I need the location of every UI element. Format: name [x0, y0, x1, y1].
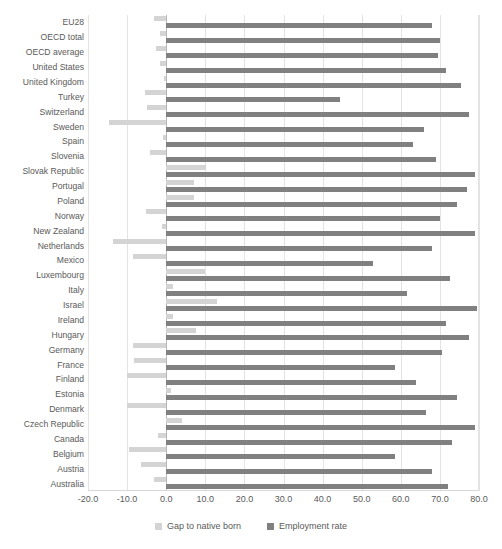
plot-right-border: [478, 15, 479, 491]
category-label: Denmark: [0, 404, 84, 414]
bar-row: [88, 372, 479, 387]
bar-row: [88, 476, 479, 491]
category-label: Belgium: [0, 449, 84, 459]
legend-item[interactable]: Employment rate: [267, 521, 347, 531]
bar-gap-to-native-born: [160, 61, 166, 66]
bar-row: [88, 298, 479, 313]
bar-employment-rate: [166, 172, 475, 177]
bar-employment-rate: [166, 23, 432, 28]
bar-gap-to-native-born: [113, 239, 167, 244]
bar-employment-rate: [166, 306, 477, 311]
bar-row: [88, 134, 479, 149]
bar-row: [88, 30, 479, 45]
bar-gap-to-native-born: [166, 180, 193, 185]
category-label: New Zealand: [0, 226, 84, 236]
bar-employment-rate: [166, 246, 432, 251]
bar-row: [88, 179, 479, 194]
chart-legend: Gap to native bornEmployment rate: [0, 521, 502, 531]
bar-gap-to-native-born: [145, 90, 167, 95]
x-axis-tick-labels: -20.0-10.00.010.020.030.040.050.060.070.…: [88, 494, 479, 510]
category-label: OECD average: [0, 47, 84, 57]
bar-row: [88, 253, 479, 268]
legend-label: Employment rate: [279, 521, 347, 531]
bar-row: [88, 283, 479, 298]
x-tick-label: -20.0: [78, 494, 99, 504]
bar-employment-rate: [166, 53, 438, 58]
x-tick-label: 70.0: [431, 494, 449, 504]
category-label: EU28: [0, 17, 84, 27]
bar-gap-to-native-born: [154, 477, 167, 482]
bar-row: [88, 89, 479, 104]
chart-container: EU28OECD totalOECD averageUnited StatesU…: [0, 0, 502, 549]
legend-swatch-icon: [155, 523, 162, 530]
bar-gap-to-native-born: [158, 433, 166, 438]
x-tick-label: 20.0: [236, 494, 254, 504]
bar-employment-rate: [166, 112, 469, 117]
category-label: Spain: [0, 136, 84, 146]
bar-employment-rate: [166, 38, 440, 43]
category-label: Italy: [0, 285, 84, 295]
bar-gap-to-native-born: [166, 314, 173, 319]
category-label: Slovenia: [0, 151, 84, 161]
x-tick-label: 80.0: [470, 494, 488, 504]
category-label: Mexico: [0, 255, 84, 265]
bar-row: [88, 104, 479, 119]
category-label: Norway: [0, 211, 84, 221]
bar-gap-to-native-born: [147, 105, 167, 110]
x-tick-label: 30.0: [275, 494, 293, 504]
bar-gap-to-native-born: [160, 31, 166, 36]
bar-gap-to-native-born: [134, 358, 166, 363]
bar-gap-to-native-born: [109, 120, 166, 125]
bar-row: [88, 208, 479, 223]
bar-employment-rate: [166, 484, 448, 489]
bar-gap-to-native-born: [156, 46, 166, 51]
bar-row: [88, 357, 479, 372]
bar-employment-rate: [166, 321, 446, 326]
bar-gap-to-native-born: [166, 388, 171, 393]
bar-gap-to-native-born: [150, 150, 166, 155]
x-tick-label: 0.0: [160, 494, 173, 504]
bar-row: [88, 327, 479, 342]
bar-employment-rate: [166, 127, 424, 132]
bar-row: [88, 60, 479, 75]
bar-row: [88, 15, 479, 30]
bar-row: [88, 417, 479, 432]
x-tick-label: -10.0: [117, 494, 138, 504]
bar-employment-rate: [166, 157, 436, 162]
bar-employment-rate: [166, 68, 446, 73]
bar-employment-rate: [166, 395, 457, 400]
bar-employment-rate: [166, 291, 406, 296]
bar-employment-rate: [166, 276, 449, 281]
bar-gap-to-native-born: [129, 447, 166, 452]
bar-employment-rate: [166, 202, 457, 207]
bar-row: [88, 223, 479, 238]
bar-employment-rate: [166, 187, 467, 192]
category-label: United States: [0, 62, 84, 72]
bar-employment-rate: [166, 440, 451, 445]
bar-gap-to-native-born: [163, 135, 166, 140]
bar-gap-to-native-born: [166, 418, 182, 423]
bar-employment-rate: [166, 469, 432, 474]
legend-label: Gap to native born: [167, 521, 241, 531]
category-label: Slovak Republic: [0, 166, 84, 176]
category-label: Israel: [0, 300, 84, 310]
bar-gap-to-native-born: [127, 403, 166, 408]
bar-rows: [88, 15, 479, 491]
bar-row: [88, 387, 479, 402]
category-label: Australia: [0, 479, 84, 489]
category-label: Austria: [0, 464, 84, 474]
bar-row: [88, 432, 479, 447]
bar-row: [88, 342, 479, 357]
bar-gap-to-native-born: [127, 373, 166, 378]
bar-gap-to-native-born: [166, 195, 193, 200]
category-label: Sweden: [0, 122, 84, 132]
bar-employment-rate: [166, 380, 416, 385]
bar-employment-rate: [166, 350, 442, 355]
legend-item[interactable]: Gap to native born: [155, 521, 241, 531]
bar-gap-to-native-born: [166, 269, 204, 274]
bar-employment-rate: [166, 97, 340, 102]
plot-area: [88, 15, 479, 491]
bar-row: [88, 149, 479, 164]
bar-gap-to-native-born: [146, 209, 166, 214]
bar-row: [88, 45, 479, 60]
